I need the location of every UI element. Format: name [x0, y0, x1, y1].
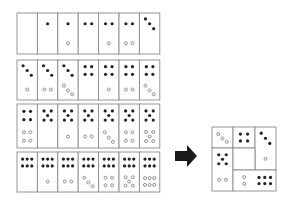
filled-pip-icon — [148, 157, 151, 160]
filled-pip-icon — [239, 133, 242, 136]
domino-tile — [17, 152, 37, 192]
filled-pip-icon — [123, 164, 126, 167]
open-pip-icon — [144, 183, 147, 186]
filled-pip-icon — [71, 164, 74, 167]
open-pip-icon — [224, 178, 227, 181]
open-pip-icon — [243, 176, 246, 179]
filled-pip-icon — [83, 109, 86, 112]
filled-pip-icon — [144, 17, 147, 20]
filled-pip-icon — [90, 65, 93, 68]
filled-pip-icon — [46, 22, 49, 25]
open-pip-icon — [217, 133, 220, 136]
filled-pip-icon — [41, 164, 44, 167]
filled-pip-icon — [90, 73, 93, 76]
filled-pip-icon — [63, 109, 66, 112]
filled-pip-icon — [131, 109, 134, 112]
filled-pip-icon — [50, 74, 53, 77]
domino-row-4 — [17, 152, 160, 192]
open-pip-icon — [111, 140, 114, 143]
filled-pip-icon — [124, 119, 127, 122]
filled-pip-icon — [26, 164, 29, 167]
filled-pip-icon — [152, 109, 155, 112]
filled-pip-icon — [71, 74, 74, 77]
filled-pip-icon — [87, 114, 90, 117]
filled-pip-icon — [148, 114, 151, 117]
open-pip-icon — [104, 184, 107, 187]
filled-pip-icon — [42, 64, 45, 67]
open-pip-icon — [103, 131, 106, 134]
filled-pip-icon — [153, 164, 156, 167]
result-tile — [233, 127, 255, 148]
filled-pip-icon — [145, 65, 148, 68]
filled-pip-icon — [22, 110, 25, 113]
filled-pip-icon — [263, 182, 266, 185]
filled-pip-icon — [83, 119, 86, 122]
domino-tile — [119, 13, 139, 54]
result-tile — [212, 148, 233, 191]
open-pip-icon — [70, 180, 73, 183]
domino-row-2 — [17, 60, 160, 100]
filled-pip-icon — [151, 73, 154, 76]
filled-pip-icon — [50, 109, 53, 112]
open-pip-icon — [225, 140, 228, 143]
filled-pip-icon — [104, 109, 107, 112]
open-pip-icon — [264, 157, 267, 160]
open-pip-icon — [131, 88, 134, 91]
result-tile — [233, 148, 255, 170]
filled-pip-icon — [82, 157, 85, 160]
open-pip-icon — [144, 140, 147, 143]
domino-tile — [58, 60, 78, 100]
filled-pip-icon — [269, 176, 272, 179]
filled-pip-icon — [66, 22, 69, 25]
filled-pip-icon — [131, 119, 134, 122]
open-pip-icon — [144, 130, 147, 133]
domino-tile — [119, 60, 139, 100]
open-pip-icon — [71, 93, 74, 96]
filled-pip-icon — [145, 73, 148, 76]
filled-pip-icon — [71, 157, 74, 160]
domino-tile — [37, 60, 57, 100]
open-pip-icon — [111, 184, 114, 187]
domino-tile — [78, 152, 98, 192]
filled-pip-icon — [153, 157, 156, 160]
filled-pip-icon — [46, 164, 49, 167]
filled-pip-icon — [103, 164, 106, 167]
filled-pip-icon — [124, 22, 127, 25]
filled-pip-icon — [51, 164, 54, 167]
open-pip-icon — [29, 131, 32, 134]
filled-pip-icon — [90, 22, 93, 25]
domino-tile — [37, 104, 57, 148]
filled-pip-icon — [110, 65, 113, 68]
open-pip-icon — [124, 42, 127, 45]
filled-pip-icon — [246, 139, 249, 142]
filled-pip-icon — [30, 164, 33, 167]
filled-pip-icon — [269, 182, 272, 185]
filled-pip-icon — [66, 164, 69, 167]
filled-pip-icon — [104, 119, 107, 122]
filled-pip-icon — [268, 142, 271, 145]
open-pip-icon — [148, 183, 151, 186]
result-tile — [233, 170, 276, 191]
filled-pip-icon — [90, 109, 93, 112]
filled-pip-icon — [103, 157, 106, 160]
filled-pip-icon — [264, 137, 267, 140]
filled-pip-icon — [84, 73, 87, 76]
filled-pip-icon — [104, 65, 107, 68]
filled-pip-icon — [107, 157, 110, 160]
filled-pip-icon — [26, 157, 29, 160]
filled-pip-icon — [70, 109, 73, 112]
domino-tile — [139, 104, 159, 148]
filled-pip-icon — [42, 119, 45, 122]
open-pip-icon — [49, 88, 52, 91]
filled-pip-icon — [46, 69, 49, 72]
open-pip-icon — [46, 180, 49, 183]
filled-pip-icon — [87, 164, 90, 167]
filled-pip-icon — [148, 22, 151, 25]
filled-pip-icon — [111, 119, 114, 122]
open-pip-icon — [148, 177, 151, 180]
filled-pip-icon — [51, 157, 54, 160]
open-pip-icon — [221, 137, 224, 140]
domino-tile — [37, 152, 57, 192]
filled-pip-icon — [124, 73, 127, 76]
filled-pip-icon — [152, 27, 155, 30]
